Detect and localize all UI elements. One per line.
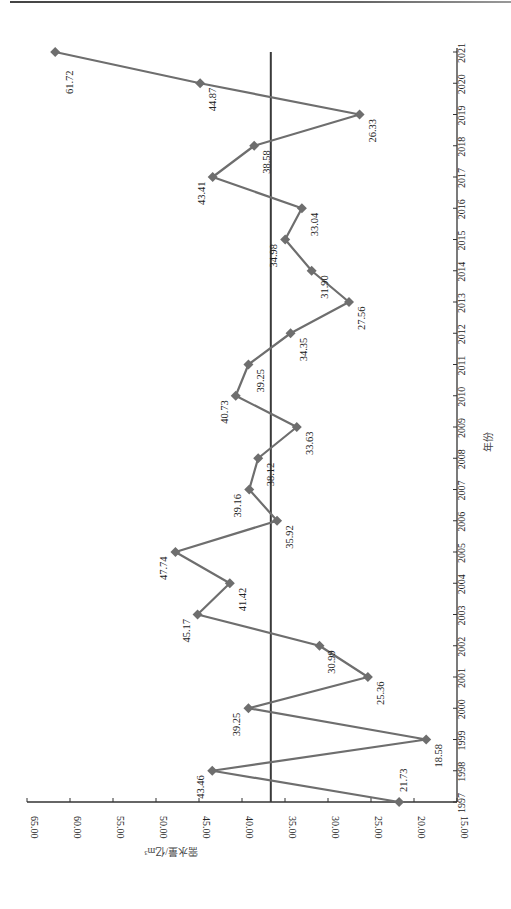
data-label: 26.33 <box>367 119 378 143</box>
value-tick-label: 55.00 <box>115 816 126 839</box>
diamond-marker-icon <box>170 547 180 557</box>
diamond-marker-icon <box>297 203 307 213</box>
data-label: 31.90 <box>319 275 330 299</box>
category-tick-label: 2000 <box>456 699 467 719</box>
line-chart: 15.0020.0025.0030.0035.0040.0045.0050.00… <box>0 0 511 909</box>
data-label: 44.87 <box>207 88 218 112</box>
diamond-marker-icon <box>50 47 60 57</box>
value-tick-label: 60.00 <box>72 816 83 839</box>
category-tick-label: 2004 <box>456 574 467 594</box>
value-axis: 15.0020.0025.0030.0035.0040.0045.0050.00… <box>27 798 470 839</box>
category-axis-title: 年份 <box>482 432 494 452</box>
value-tick-label: 15.00 <box>459 816 470 839</box>
data-label: 33.04 <box>309 212 320 236</box>
value-tick-label: 65.00 <box>29 816 40 839</box>
diamond-marker-icon <box>421 735 431 745</box>
data-label: 47.74 <box>158 556 169 580</box>
data-labels: 21.7343.4618.5839.2525.3630.9945.1741.42… <box>64 70 444 798</box>
category-tick-label: 2007 <box>456 481 467 501</box>
data-label: 27.56 <box>356 306 367 330</box>
category-tick-label: 2021 <box>456 43 467 63</box>
category-tick-label: 2002 <box>456 637 467 657</box>
category-tick-label: 2003 <box>456 606 467 626</box>
category-tick-label: 1997 <box>456 793 467 813</box>
category-tick-label: 2019 <box>456 106 467 126</box>
diamond-marker-icon <box>394 797 404 807</box>
value-tick-label: 20.00 <box>416 816 427 839</box>
data-label: 34.35 <box>298 338 309 362</box>
category-tick-label: 2011 <box>456 356 467 376</box>
data-label: 18.58 <box>433 744 444 768</box>
category-tick-label: 1998 <box>456 762 467 782</box>
data-label: 43.46 <box>195 775 206 799</box>
value-tick-label: 25.00 <box>373 816 384 839</box>
value-tick-label: 40.00 <box>244 816 255 839</box>
category-axis: 1997199819992000200120022003200420052006… <box>453 43 467 813</box>
data-label: 39.16 <box>232 494 243 518</box>
category-tick-label: 2010 <box>456 387 467 407</box>
diamond-marker-icon <box>231 391 241 401</box>
data-label: 33.63 <box>304 431 315 455</box>
category-tick-label: 2013 <box>456 293 467 313</box>
category-tick-label: 2012 <box>456 324 467 344</box>
data-label: 25.36 <box>375 681 386 705</box>
category-tick-label: 2005 <box>456 543 467 563</box>
value-axis-title: 需水量/亿m³ <box>144 846 198 858</box>
value-tick-label: 30.00 <box>330 816 341 839</box>
category-tick-label: 2018 <box>456 137 467 157</box>
diamond-marker-icon <box>195 78 205 88</box>
data-label: 39.25 <box>255 369 266 393</box>
value-tick-label: 35.00 <box>287 816 298 839</box>
category-tick-label: 2008 <box>456 449 467 469</box>
category-tick-label: 2016 <box>456 199 467 219</box>
data-label: 30.99 <box>326 650 337 674</box>
data-label: 39.25 <box>231 713 242 737</box>
category-tick-label: 1999 <box>456 731 467 751</box>
category-tick-label: 2006 <box>456 512 467 532</box>
data-label: 21.73 <box>398 768 409 792</box>
category-tick-label: 2015 <box>456 231 467 251</box>
data-label: 41.42 <box>237 588 248 612</box>
data-label: 35.92 <box>284 525 295 549</box>
data-label: 34.98 <box>268 244 279 268</box>
category-tick-label: 2020 <box>456 74 467 94</box>
category-tick-label: 2009 <box>456 418 467 438</box>
data-label: 45.17 <box>181 619 192 643</box>
category-tick-label: 2001 <box>456 668 467 688</box>
value-tick-label: 45.00 <box>201 816 212 839</box>
diamond-marker-icon <box>243 703 253 713</box>
data-label: 61.72 <box>64 70 75 94</box>
data-label: 40.73 <box>219 400 230 424</box>
data-label: 43.41 <box>196 181 207 205</box>
data-label: 38.12 <box>265 463 276 487</box>
series-polyline <box>55 52 426 802</box>
diamond-marker-icon <box>355 110 365 120</box>
category-tick-label: 2014 <box>456 262 467 282</box>
value-tick-label: 50.00 <box>158 816 169 839</box>
category-tick-label: 2017 <box>456 168 467 188</box>
data-label: 38.58 <box>261 150 272 174</box>
diamond-marker-icon <box>207 766 217 776</box>
